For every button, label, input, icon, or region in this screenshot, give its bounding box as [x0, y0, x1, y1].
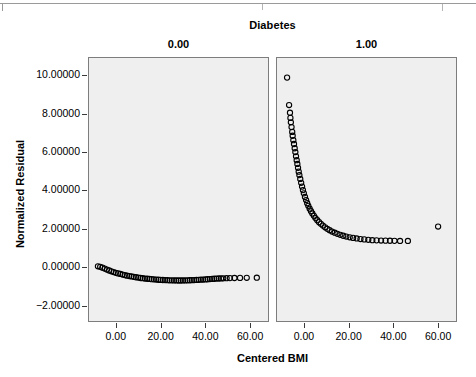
x-axis-tick-label: 20.00 [324, 330, 374, 342]
panel-strip-label-1: 1.00 [276, 38, 457, 50]
x-axis-tick [250, 323, 251, 328]
chart-root: Diabetes 0.00 1.00 10.000008.000006.0000… [0, 0, 476, 377]
x-axis-tick [438, 323, 439, 328]
chart-title: Diabetes [88, 19, 457, 31]
x-axis-tick [161, 323, 162, 328]
x-axis-tick-label: 60.00 [413, 330, 463, 342]
y-axis-tick [82, 267, 87, 268]
scatter-series-panel-0 [89, 58, 268, 321]
x-axis-tick-label: 40.00 [368, 330, 418, 342]
scatter-series-panel-1 [277, 58, 456, 321]
y-axis-tick-label: −2.00000 [2, 299, 80, 311]
data-point [436, 224, 441, 229]
plot-panel-diabetes-1 [276, 57, 457, 322]
y-axis-tick-label: 10.00000 [2, 68, 80, 80]
x-axis-tick [393, 323, 394, 328]
x-axis-tick-label: 0.00 [91, 330, 141, 342]
x-axis-title: Centered BMI [88, 352, 457, 364]
data-point [244, 275, 249, 280]
data-point [237, 275, 242, 280]
x-axis-tick-label: 60.00 [225, 330, 275, 342]
y-axis-tick [82, 114, 87, 115]
x-axis-tick-label: 20.00 [136, 330, 186, 342]
data-point [397, 238, 402, 243]
x-axis-tick [304, 323, 305, 328]
x-axis-tick [205, 323, 206, 328]
y-axis-tick [82, 306, 87, 307]
x-axis-tick [116, 323, 117, 328]
top-divider-tick-right [442, 4, 443, 11]
y-axis-tick [82, 229, 87, 230]
data-point [284, 75, 289, 80]
x-axis-tick-label: 40.00 [180, 330, 230, 342]
y-axis-tick [82, 190, 87, 191]
data-point [287, 110, 292, 115]
plot-panel-diabetes-0 [88, 57, 269, 322]
y-axis: 10.000008.000006.000004.000002.000000.00… [0, 0, 80, 377]
top-divider-tick-middle [262, 4, 263, 10]
y-axis-title: Normalized Residual [14, 119, 26, 269]
y-axis-tick [82, 75, 87, 76]
x-axis-tick [349, 323, 350, 328]
y-axis-tick-label: 8.00000 [2, 107, 80, 119]
data-point [286, 102, 291, 107]
y-axis-tick [82, 152, 87, 153]
data-point [405, 238, 410, 243]
panel-strip-label-0: 0.00 [88, 38, 269, 50]
x-axis-tick-label: 0.00 [279, 330, 329, 342]
data-point [254, 275, 259, 280]
